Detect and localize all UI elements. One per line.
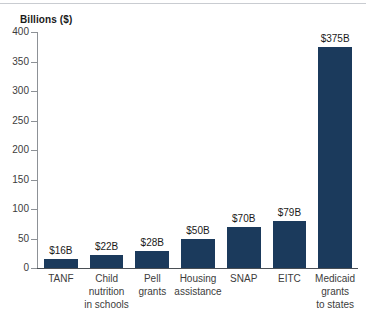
bar[interactable] [227, 227, 261, 268]
category-label-line: EITC [264, 272, 316, 285]
bar-value-label: $16B [49, 246, 72, 256]
bar-value-label: $375B [321, 34, 350, 44]
bar-slot: $28B [135, 32, 169, 268]
category-label-line: Housing [172, 272, 224, 285]
category-label: SNAP [218, 272, 270, 285]
x-axis-line [37, 268, 358, 269]
bar[interactable] [181, 239, 215, 269]
y-axis-tick-label: 50 [1, 234, 29, 244]
y-axis-tick [31, 209, 37, 210]
bar[interactable] [44, 259, 78, 268]
category-label: Childnutritionin schools [81, 272, 133, 311]
category-label-line: assistance [172, 285, 224, 298]
y-axis-tick-label: 350 [1, 57, 29, 67]
y-axis-tick [31, 32, 37, 33]
category-label-line: nutrition [81, 285, 133, 298]
y-axis-tick [31, 121, 37, 122]
category-label-line: Pell [126, 272, 178, 285]
y-axis-tick-label: 400 [1, 27, 29, 37]
y-axis-tick [31, 91, 37, 92]
bar-value-label: $22B [95, 242, 118, 252]
category-label: Pellgrants [126, 272, 178, 298]
y-axis-title: Billions ($) [20, 14, 72, 25]
category-label-line: SNAP [218, 272, 270, 285]
category-label: TANF [35, 272, 87, 285]
y-axis-tick [31, 268, 37, 269]
bar[interactable] [90, 255, 124, 268]
bar-slot: $70B [227, 32, 261, 268]
bar[interactable] [273, 221, 307, 268]
bar[interactable] [318, 47, 352, 268]
category-label: Medicaidgrantsto states [309, 272, 361, 311]
category-label-line: TANF [35, 272, 87, 285]
bar-chart: Billions ($) 400350300250200150100500 $1… [0, 0, 366, 314]
category-label: Housingassistance [172, 272, 224, 298]
category-label-line: Medicaid [309, 272, 361, 285]
y-axis-tick-label: 150 [1, 175, 29, 185]
y-axis-tick-label: 0 [1, 263, 29, 273]
y-axis-tick [31, 180, 37, 181]
bar-value-label: $79B [278, 208, 301, 218]
bar-slot: $22B [90, 32, 124, 268]
bar-slot: $375B [318, 32, 352, 268]
y-axis-tick-label: 250 [1, 116, 29, 126]
bar-series: $16B$22B$28B$50B$70B$79B$375B [38, 32, 358, 268]
bar-value-label: $70B [232, 214, 255, 224]
y-axis-tick [31, 150, 37, 151]
y-axis-tick [31, 239, 37, 240]
y-axis-tick-label: 100 [1, 204, 29, 214]
bar-slot: $50B [181, 32, 215, 268]
bar-value-label: $50B [186, 226, 209, 236]
bar-slot: $16B [44, 32, 78, 268]
category-label-line: grants [309, 285, 361, 298]
x-axis-category-labels: TANFChildnutritionin schoolsPellgrantsHo… [38, 272, 358, 314]
category-label-line: grants [126, 285, 178, 298]
y-axis-tick-label: 200 [1, 145, 29, 155]
category-label: EITC [264, 272, 316, 285]
bar-value-label: $28B [141, 238, 164, 248]
bar[interactable] [135, 251, 169, 268]
bar-slot: $79B [273, 32, 307, 268]
category-label-line: in schools [81, 298, 133, 311]
category-label-line: Child [81, 272, 133, 285]
y-axis-tick-label: 300 [1, 86, 29, 96]
y-axis-tick [31, 62, 37, 63]
category-label-line: to states [309, 298, 361, 311]
